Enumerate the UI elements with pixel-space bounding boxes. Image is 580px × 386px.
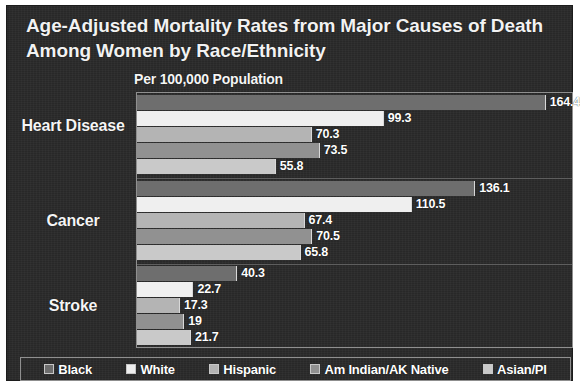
bar-row: 70.5 (137, 229, 572, 244)
legend-item-black[interactable]: Black (44, 362, 92, 377)
bar-value-label: 70.5 (316, 228, 340, 244)
bar-value-label: 65.8 (305, 244, 329, 260)
bar-value-label: 99.3 (388, 110, 412, 126)
chart-legend: BlackWhiteHispanicAm Indian/AK NativeAsi… (20, 357, 571, 381)
bar-value-label: 19 (188, 313, 202, 329)
bar-row: 99.3 (137, 111, 572, 126)
chart-title: Age-Adjusted Mortality Rates from Major … (26, 13, 561, 63)
bar-row: 70.3 (137, 127, 572, 142)
legend-item-am-indian-ak-native[interactable]: Am Indian/AK Native (310, 362, 448, 377)
bar-value-label: 40.3 (241, 265, 265, 281)
bar-am-indian-ak-native[interactable] (137, 143, 320, 158)
legend-label: Asian/PI (497, 362, 547, 377)
category-label: Cancer (14, 211, 132, 230)
legend-item-hispanic[interactable]: Hispanic (209, 362, 276, 377)
bar-white[interactable] (137, 111, 384, 126)
bar-value-label: 21.7 (195, 329, 219, 345)
bar-black[interactable] (137, 181, 475, 196)
legend-label: Black (58, 362, 92, 377)
category-label: Stroke (14, 296, 132, 315)
bar-hispanic[interactable] (137, 213, 305, 228)
bar-row: 19 (137, 314, 572, 329)
bar-row: 17.3 (137, 298, 572, 313)
legend-label: White (140, 362, 174, 377)
bar-hispanic[interactable] (137, 298, 180, 313)
bar-row: 40.3 (137, 266, 572, 281)
bar-hispanic[interactable] (137, 127, 312, 142)
bar-row: 73.5 (137, 143, 572, 158)
bar-row: 164.4 (137, 95, 572, 110)
legend-swatch-icon (310, 364, 320, 374)
legend-label: Hispanic (223, 362, 276, 377)
bar-asian-pi[interactable] (137, 159, 276, 174)
bar-asian-pi[interactable] (137, 245, 301, 260)
legend-swatch-icon (44, 364, 54, 374)
bar-white[interactable] (137, 197, 412, 212)
bar-row: 55.8 (137, 159, 572, 174)
bar-value-label: 136.1 (479, 180, 509, 196)
bar-row: 22.7 (137, 282, 572, 297)
bar-row: 67.4 (137, 213, 572, 228)
bar-value-label: 55.8 (280, 158, 304, 174)
bar-black[interactable] (137, 266, 237, 281)
legend-swatch-icon (126, 364, 136, 374)
bar-value-label: 164.4 (550, 94, 580, 110)
group-divider (137, 264, 572, 265)
bar-value-label: 70.3 (316, 126, 340, 142)
bar-black[interactable] (137, 95, 546, 110)
chart-panel: Age-Adjusted Mortality Rates from Major … (6, 5, 573, 381)
chart-subtitle: Per 100,000 Population (134, 71, 283, 87)
bar-asian-pi[interactable] (137, 330, 191, 345)
bar-am-indian-ak-native[interactable] (137, 314, 184, 329)
legend-item-asian-pi[interactable]: Asian/PI (483, 362, 547, 377)
legend-item-white[interactable]: White (126, 362, 174, 377)
bar-value-label: 22.7 (197, 281, 221, 297)
legend-swatch-icon (209, 364, 219, 374)
category-label: Heart Disease (14, 116, 132, 135)
bar-row: 110.5 (137, 197, 572, 212)
bar-row: 136.1 (137, 181, 572, 196)
bar-row: 21.7 (137, 330, 572, 345)
bar-white[interactable] (137, 282, 193, 297)
bar-value-label: 67.4 (309, 212, 333, 228)
bar-row: 65.8 (137, 245, 572, 260)
legend-label: Am Indian/AK Native (324, 362, 448, 377)
bar-am-indian-ak-native[interactable] (137, 229, 312, 244)
bar-value-label: 73.5 (324, 142, 348, 158)
bar-value-label: 17.3 (184, 297, 208, 313)
bar-value-label: 110.5 (416, 196, 446, 212)
legend-swatch-icon (483, 364, 493, 374)
